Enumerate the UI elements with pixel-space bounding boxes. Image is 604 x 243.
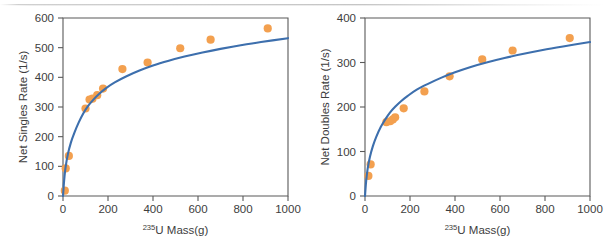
net-doubles-y-axis-title: Net Doubles Rate (1/s)	[319, 48, 331, 165]
net-singles-y-tick-label: 300	[35, 101, 54, 113]
net-singles-fit-curve	[63, 38, 288, 196]
net-doubles-x-tick-label: 600	[490, 203, 509, 215]
net-singles-data-point	[207, 36, 215, 44]
net-doubles-x-tick-label: 400	[445, 203, 464, 215]
net-singles-data-point	[264, 24, 272, 32]
net-doubles-y-axis: 0100200300400	[337, 12, 365, 202]
net-doubles-data-point	[420, 87, 428, 95]
net-singles-y-tick-label: 600	[35, 12, 54, 24]
net-singles-x-tick-label: 400	[143, 203, 162, 215]
net-doubles-y-tick-label: 200	[337, 101, 356, 113]
net-singles-axes-frame	[63, 18, 288, 196]
net-singles-y-tick-label: 0	[48, 190, 54, 202]
net-singles-x-tick-label: 1000	[275, 203, 301, 215]
net-singles-x-tick-label: 600	[188, 203, 207, 215]
net-singles-y-tick-label: 100	[35, 160, 54, 172]
net-doubles-data-point	[391, 113, 399, 121]
net-doubles-x-tick-label: 1000	[577, 203, 603, 215]
net-singles-data-point	[176, 44, 184, 52]
net-singles-x-tick-label: 200	[98, 203, 117, 215]
net-doubles-y-tick-label: 300	[337, 57, 356, 69]
net-singles-y-axis-title: Net Singles Rate (1/s)	[17, 51, 29, 164]
net-singles-data-point	[118, 65, 126, 73]
net-singles-y-tick-label: 500	[35, 42, 54, 54]
net-doubles-x-tick-label: 0	[362, 203, 368, 215]
chart-panel-net-doubles-rate: 020040060080010000100200300400235U Mass(…	[302, 0, 604, 243]
net-singles-x-tick-label: 800	[233, 203, 252, 215]
net-doubles-rate-svg: 020040060080010000100200300400235U Mass(…	[302, 0, 604, 243]
net-doubles-data-point	[400, 104, 408, 112]
net-doubles-x-axis-title: 235U Mass(g)	[445, 223, 511, 236]
net-singles-y-axis: 0100200300400500600	[35, 12, 63, 202]
net-doubles-plot-group: 020040060080010000100200300400235U Mass(…	[319, 12, 603, 236]
net-doubles-y-tick-label: 400	[337, 12, 356, 24]
net-singles-x-tick-label: 0	[60, 203, 66, 215]
net-doubles-data-point	[509, 46, 517, 54]
net-doubles-x-tick-label: 200	[400, 203, 419, 215]
chart-panel-net-singles-rate: 020040060080010000100200300400500600235U…	[0, 0, 302, 243]
net-singles-y-tick-label: 400	[35, 71, 54, 83]
net-doubles-x-axis: 02004006008001000	[362, 196, 603, 215]
figure-page: 020040060080010000100200300400500600235U…	[0, 0, 604, 243]
net-doubles-x-tick-label: 800	[535, 203, 554, 215]
net-singles-y-tick-label: 200	[35, 131, 54, 143]
net-singles-rate-svg: 020040060080010000100200300400500600235U…	[0, 0, 302, 243]
net-doubles-axes-frame	[365, 18, 590, 196]
net-singles-x-axis-title: 235U Mass(g)	[143, 223, 209, 236]
net-singles-plot-group: 020040060080010000100200300400500600235U…	[17, 12, 301, 236]
net-doubles-data-point	[566, 34, 574, 42]
net-singles-data-point	[61, 187, 69, 195]
net-doubles-y-tick-label: 100	[337, 146, 356, 158]
net-singles-data-points	[61, 24, 272, 194]
net-singles-x-axis: 02004006008001000	[60, 196, 301, 215]
net-doubles-y-tick-label: 0	[350, 190, 356, 202]
